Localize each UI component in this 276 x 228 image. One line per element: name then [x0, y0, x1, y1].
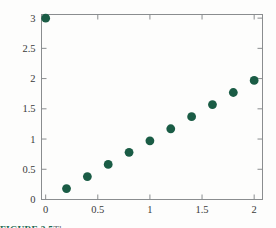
data-point	[250, 76, 259, 85]
caption-body: The ...	[53, 225, 79, 228]
y-tick-label: 2.5	[22, 43, 35, 54]
y-axis-ticks	[42, 18, 47, 199]
y-tick-label: 1	[30, 134, 35, 145]
y-axis-tick-labels: 00.511.522.53	[22, 13, 35, 205]
data-point	[208, 100, 217, 109]
figure-panel: 00.511.52 00.511.522.53 FIGURE 3.5The ..…	[0, 0, 276, 228]
y-axis-ticks-right	[258, 18, 263, 199]
scatter-plot: 00.511.52 00.511.522.53	[0, 0, 276, 228]
x-axis-ticks	[46, 195, 254, 200]
x-tick-label: 0	[43, 204, 48, 215]
data-point	[41, 14, 50, 23]
y-tick-label: 1.5	[22, 103, 35, 114]
data-point	[62, 184, 71, 193]
data-point	[146, 136, 155, 145]
data-point	[187, 112, 196, 121]
axes-frame	[42, 15, 263, 200]
y-tick-label: 0	[30, 194, 35, 205]
figure-caption: FIGURE 3.5The ...	[0, 219, 276, 228]
data-point	[125, 148, 134, 157]
y-tick-label: 3	[30, 13, 35, 24]
plot-frame	[42, 15, 263, 200]
x-tick-label: 2	[252, 204, 257, 215]
x-tick-label: 1.5	[195, 204, 208, 215]
x-axis-ticks-top	[46, 15, 254, 20]
caption-label: FIGURE 3.5	[0, 225, 53, 228]
x-axis-tick-labels: 00.511.52	[43, 204, 257, 215]
caption-line: FIGURE 3.5The ...	[0, 225, 79, 228]
y-tick-label: 2	[30, 73, 35, 84]
x-tick-label: 1	[147, 204, 152, 215]
data-point	[104, 160, 113, 169]
data-point	[83, 172, 92, 181]
x-tick-label: 0.5	[91, 204, 104, 215]
data-point-group	[41, 14, 258, 193]
y-tick-label: 0.5	[22, 164, 35, 175]
data-point	[229, 88, 238, 97]
data-point	[166, 124, 175, 133]
